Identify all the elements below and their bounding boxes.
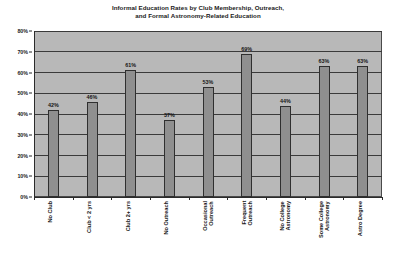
bar [241, 54, 252, 197]
x-axis-category-label: Astro Degree [357, 201, 363, 236]
bar [125, 70, 136, 197]
y-axis-tick-label: 20% [17, 153, 28, 159]
x-axis-tick [227, 197, 228, 200]
y-axis-line [34, 31, 35, 197]
x-axis-tick [34, 197, 35, 200]
chart-title: Informal Education Rates by Club Members… [0, 4, 396, 20]
x-axis-tick [111, 197, 112, 200]
chart-title-line-2: and Formal Astronomy-Related Education [0, 12, 396, 20]
x-axis-tick [150, 197, 151, 200]
x-axis-category-label: Club < 2 yrs [86, 201, 92, 233]
bar-value-label: 63% [319, 58, 330, 64]
y-axis-tick-label: 70% [17, 49, 28, 55]
chart-title-line-1: Informal Education Rates by Club Members… [0, 4, 396, 12]
bars-layer: 42%46%61%37%53%69%44%63%63% [34, 31, 382, 197]
x-axis-category-label: Occasional Outreach [202, 201, 215, 231]
y-axis-tick [29, 197, 32, 198]
bar [280, 106, 291, 197]
y-axis-tick-label: 80% [17, 28, 28, 34]
y-axis-tick-label: 60% [17, 70, 28, 76]
bar-value-label: 37% [164, 112, 175, 118]
x-axis-category-label: Frequent Outreach [241, 201, 254, 226]
y-axis-tick [29, 155, 32, 156]
y-axis: 0%10%20%30%40%50%60%70%80% [0, 31, 32, 197]
plot-area: 42%46%61%37%53%69%44%63%63% [34, 31, 382, 197]
y-axis-tick-label: 10% [17, 173, 28, 179]
y-axis-tick [29, 72, 32, 73]
x-axis-tick [73, 197, 74, 200]
x-axis-category-label: Club 2+ yrs [125, 201, 131, 231]
bar [203, 87, 214, 197]
bar [164, 120, 175, 197]
bar [48, 110, 59, 197]
x-axis-tick [189, 197, 190, 200]
bar-value-label: 61% [125, 62, 136, 68]
x-axis-category-label: No Club [47, 201, 53, 222]
y-axis-tick [29, 93, 32, 94]
bar [319, 66, 330, 197]
y-axis-tick-label: 50% [17, 90, 28, 96]
bar-value-label: 53% [203, 79, 214, 85]
bar-value-label: 44% [280, 98, 291, 104]
y-axis-tick-label: 0% [20, 194, 28, 200]
x-axis-tick [343, 197, 344, 200]
x-axis-category-label: Some College Astronomy [318, 201, 331, 238]
x-axis-tick [382, 197, 383, 200]
y-axis-tick [29, 114, 32, 115]
x-axis-tick [305, 197, 306, 200]
y-axis-tick-label: 40% [17, 111, 28, 117]
bar-value-label: 69% [241, 46, 252, 52]
bar [357, 66, 368, 197]
y-axis-tick [29, 51, 32, 52]
y-axis-tick-label: 30% [17, 132, 28, 138]
bar-value-label: 42% [48, 102, 59, 108]
x-axis-category-label: No College Astronomy [279, 201, 292, 231]
x-axis-tick [266, 197, 267, 200]
chart-container: Informal Education Rates by Club Members… [0, 0, 396, 268]
x-axis-category-label: No Outreach [163, 201, 169, 235]
y-axis-tick [29, 176, 32, 177]
bar-value-label: 46% [87, 94, 98, 100]
bar [87, 102, 98, 197]
x-axis-labels: No ClubClub < 2 yrsClub 2+ yrsNo Outreac… [34, 201, 382, 267]
y-axis-tick [29, 31, 32, 32]
y-axis-tick [29, 134, 32, 135]
bar-value-label: 63% [357, 58, 368, 64]
